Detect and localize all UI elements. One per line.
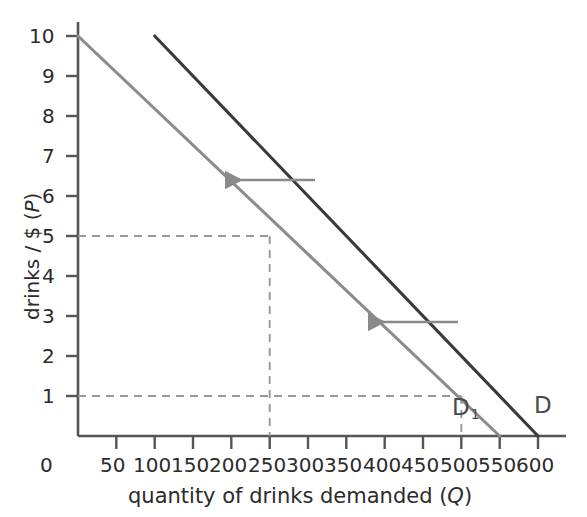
- x-axis-title: quantity of drinks demanded (Q): [128, 486, 472, 507]
- demand-curve-d: [155, 36, 538, 436]
- x-axis-title-close: ): [464, 484, 472, 508]
- x-tick-label-400: 400: [363, 455, 401, 475]
- x-tick-label-600: 600: [516, 455, 554, 475]
- y-axis-title-variable: P: [20, 200, 44, 212]
- x-axis-title-plain: quantity of drinks demanded (: [128, 484, 447, 508]
- origin-tick-label: 0: [40, 455, 53, 475]
- x-tick-label-300: 300: [286, 455, 324, 475]
- y-tick-label-2: 2: [42, 346, 55, 366]
- y-axis-title-close: ): [20, 193, 44, 201]
- x-axis-ticks: [116, 436, 538, 449]
- x-tick-label-350: 350: [324, 455, 362, 475]
- x-tick-label-450: 450: [401, 455, 439, 475]
- y-tick-label-7: 7: [42, 146, 55, 166]
- x-tick-label-100: 100: [133, 455, 171, 475]
- x-tick-label-250: 250: [248, 455, 286, 475]
- x-tick-label-200: 200: [209, 455, 247, 475]
- curve-label-d1: D1: [452, 396, 479, 419]
- x-tick-label-150: 150: [171, 455, 209, 475]
- y-tick-label-9: 9: [42, 66, 55, 86]
- guide-lines: [78, 236, 461, 436]
- y-axis-title-plain: drinks / $ (: [20, 213, 44, 321]
- y-tick-label-8: 8: [42, 106, 55, 126]
- curve-label-d1-base: D: [452, 394, 470, 420]
- y-axis-ticks: [66, 36, 78, 396]
- curve-label-d1-subscript: 1: [471, 406, 480, 422]
- curve-label-d: D: [534, 394, 552, 417]
- x-axis-title-variable: Q: [447, 484, 464, 508]
- x-tick-label-500: 500: [440, 455, 478, 475]
- y-tick-label-10: 10: [29, 26, 54, 46]
- y-axis-title: drinks / $ (P): [22, 193, 42, 320]
- chart-plot-area: [0, 0, 587, 517]
- y-tick-label-1: 1: [42, 386, 55, 406]
- demand-curve-figure: 10 9 8 7 6 5 4 3 2 1 0 50 100 150 200 25…: [0, 0, 587, 517]
- x-tick-label-550: 550: [478, 455, 516, 475]
- x-tick-label-50: 50: [100, 455, 125, 475]
